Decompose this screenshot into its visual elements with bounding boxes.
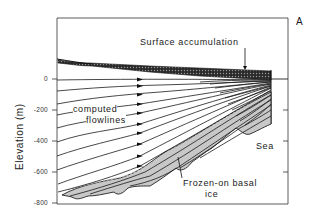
y-axis-label: Elevation (m) [14,103,25,170]
flow-direction-arrows [137,78,143,169]
frozen-on-label-line1: Frozen-on basal [183,178,257,188]
frozen-on-label-line2: ice [205,189,218,199]
computed-flowlines-label-line2: flowlines [86,115,126,125]
surface-accumulation-layer [58,60,271,80]
surface-accumulation-arrowhead [243,66,247,70]
y-tick-800: -800 [18,199,48,206]
sea-label: Sea [256,141,274,151]
computed-flowlines-label-line1: computed [73,104,117,114]
surface-accumulation-label: Surface accumulation [140,37,239,47]
panel-label: A [296,16,303,27]
ice-shelf-flowline-diagram: A Surface accumulation computed flowline… [0,0,316,221]
y-axis-ticks [52,79,57,203]
right-axis-ticks [283,110,288,172]
y-tick-0: 0 [18,75,48,82]
